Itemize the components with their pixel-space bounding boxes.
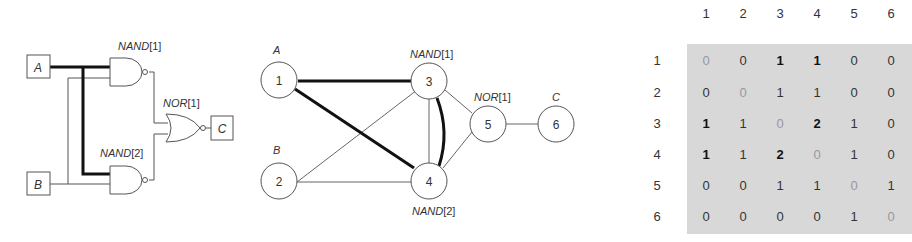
matrix-cell: 1: [733, 116, 753, 131]
nor-label: NOR[1]: [163, 97, 200, 109]
matrix-col-header: 5: [844, 6, 864, 21]
matrix-cell: 0: [733, 178, 753, 193]
matrix-cell: 0: [770, 116, 790, 131]
nor-gate: [166, 114, 200, 142]
matrix-row-header: 4: [647, 147, 667, 162]
node-5-id: 5: [485, 118, 492, 132]
matrix-cell: 1: [844, 209, 864, 224]
matrix-cell: 0: [770, 209, 790, 224]
matrix-cell: 0: [881, 147, 901, 162]
matrix-cell: 0: [881, 116, 901, 131]
matrix-cell: 1: [844, 116, 864, 131]
matrix-cell: 1: [770, 85, 790, 100]
matrix-cell: 0: [881, 209, 901, 224]
node-3-id: 3: [426, 75, 433, 89]
matrix-cell: 1: [807, 85, 827, 100]
node-6-label: C: [552, 91, 560, 103]
matrix-cell: 2: [807, 116, 827, 131]
nand1-label: NAND[1]: [118, 40, 161, 52]
matrix-cell: 1: [881, 178, 901, 193]
matrix-cell: 0: [696, 85, 716, 100]
matrix-cell: 0: [844, 85, 864, 100]
node-1-label: A: [272, 44, 280, 56]
matrix-row-header: 5: [647, 178, 667, 193]
output-c-label: C: [218, 122, 227, 136]
matrix-cell: 0: [844, 53, 864, 68]
matrix-cell: 2: [770, 147, 790, 162]
matrix-col-header: 4: [807, 6, 827, 21]
matrix-cell: 1: [770, 53, 790, 68]
matrix-row-header: 6: [647, 209, 667, 224]
matrix-row-header: 2: [647, 85, 667, 100]
node-2-label: B: [273, 144, 280, 156]
matrix-cell: 0: [844, 178, 864, 193]
input-b-label: B: [34, 178, 42, 192]
node-5-label: NOR[1]: [474, 91, 511, 103]
node-1-id: 1: [276, 74, 283, 88]
matrix-cell: 0: [696, 53, 716, 68]
matrix-row-header: 3: [647, 116, 667, 131]
matrix-cell: 1: [733, 147, 753, 162]
node-4-id: 4: [426, 175, 433, 189]
node-6-id: 6: [553, 118, 560, 132]
matrix-col-header: 2: [733, 6, 753, 21]
logic-circuit: A B C NAND[1] NAND[2] NOR[1]: [0, 0, 250, 242]
matrix-cell: 0: [881, 85, 901, 100]
node-2-id: 2: [276, 175, 283, 189]
circuit-graph: 1 2 3 4 5 6 A B NAND[1] NAND[2] NOR[1] C: [250, 0, 610, 242]
matrix-col-header: 3: [770, 6, 790, 21]
matrix-cell: 1: [844, 147, 864, 162]
adjacency-matrix: 1234561234560011000011001102101120100011…: [643, 0, 886, 242]
node-4-label: NAND[2]: [412, 205, 455, 217]
matrix-col-header: 6: [881, 6, 901, 21]
matrix-cell: 1: [807, 178, 827, 193]
matrix-background: [687, 44, 912, 234]
matrix-cell: 0: [807, 147, 827, 162]
matrix-cell: 0: [881, 53, 901, 68]
nand2-label: NAND[2]: [100, 147, 143, 159]
matrix-cell: 1: [696, 116, 716, 131]
matrix-cell: 0: [733, 85, 753, 100]
matrix-cell: 1: [696, 147, 716, 162]
matrix-row-header: 1: [647, 53, 667, 68]
nand2-gate: [110, 166, 142, 194]
matrix-cell: 1: [770, 178, 790, 193]
matrix-cell: 0: [807, 209, 827, 224]
matrix-col-header: 1: [696, 6, 716, 21]
node-3-label: NAND[1]: [410, 48, 453, 60]
nand1-gate: [110, 58, 142, 86]
matrix-cell: 0: [733, 209, 753, 224]
matrix-cell: 0: [696, 209, 716, 224]
matrix-cell: 0: [696, 178, 716, 193]
input-a-label: A: [33, 61, 42, 75]
matrix-cell: 1: [807, 53, 827, 68]
matrix-cell: 0: [733, 53, 753, 68]
